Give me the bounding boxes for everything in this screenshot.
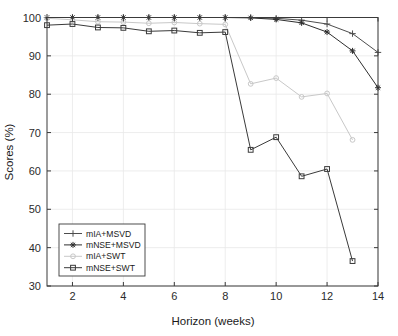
y-tick-label: 80 — [29, 88, 41, 100]
y-tick-label: 70 — [29, 127, 41, 139]
y-tick-label: 100 — [23, 12, 41, 24]
x-tick-label: 12 — [321, 290, 333, 302]
chart-legend[interactable]: mIA+MSVDmNSE+MSVDmIA+SWTmNSE+SWT — [59, 224, 145, 276]
x-tick-label: 10 — [270, 290, 282, 302]
y-tick-label: 40 — [29, 242, 41, 254]
scores-vs-horizon-line-chart: 246810121430405060708090100 mIA+MSVDmNSE… — [0, 0, 398, 336]
data-point-marker-asterisk — [324, 29, 330, 35]
x-axis-title: Horizon (weeks) — [171, 315, 254, 327]
legend-label: mNSE+SWT — [86, 263, 136, 273]
data-point-marker-asterisk — [299, 20, 305, 26]
y-tick-label: 50 — [29, 203, 41, 215]
data-point-marker-asterisk — [70, 242, 76, 248]
legend-label: mIA+MSVD — [86, 229, 131, 239]
chart-figure: 246810121430405060708090100 mIA+MSVDmNSE… — [0, 0, 398, 336]
x-tick-label: 8 — [222, 290, 228, 302]
legend-label: mNSE+MSVD — [86, 240, 141, 250]
y-tick-label: 90 — [29, 50, 41, 62]
y-tick-label: 30 — [29, 280, 41, 292]
legend-label: mIA+SWT — [86, 251, 126, 261]
x-tick-label: 4 — [120, 290, 126, 302]
x-tick-label: 6 — [171, 290, 177, 302]
data-point-marker-asterisk — [350, 48, 356, 54]
y-tick-label: 60 — [29, 165, 41, 177]
y-axis-title: Scores (%) — [3, 123, 15, 180]
x-tick-label: 2 — [69, 290, 75, 302]
x-tick-label: 14 — [372, 290, 384, 302]
